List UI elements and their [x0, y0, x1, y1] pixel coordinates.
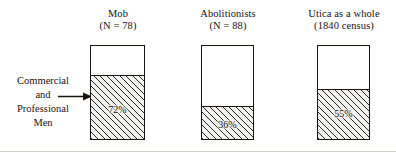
column-subtitle: (N = 78) [73, 20, 163, 32]
column-header-utica-as-a-whole: Utica as a whole (1840 census) [292, 8, 396, 33]
column-header-abolitionists: Abolitionists (N = 88) [183, 8, 273, 33]
column-title: Abolitionists [183, 8, 273, 20]
bar-utica-as-a-whole: 55% [317, 45, 370, 140]
bar-abolitionists: 36% [201, 45, 254, 140]
row-label-line: Men [0, 116, 86, 130]
bar-fill-abolitionists: 36% [202, 106, 253, 139]
bar-chart-figure: Mob (N = 78) Abolitionists (N = 88) Utic… [0, 0, 396, 153]
column-subtitle: (1840 census) [292, 20, 396, 32]
column-subtitle: (N = 88) [183, 20, 273, 32]
page-bottom-rule [0, 151, 396, 152]
bar-value-label: 36% [202, 119, 253, 130]
column-title: Utica as a whole [292, 8, 396, 20]
column-header-mob: Mob (N = 78) [73, 8, 163, 33]
bar-fill-utica-as-a-whole: 55% [318, 89, 369, 139]
bar-value-label: 72% [91, 104, 144, 115]
arrow-icon [58, 92, 92, 101]
bar-mob: 72% [90, 45, 145, 140]
column-title: Mob [73, 8, 163, 20]
bar-fill-mob: 72% [91, 75, 144, 139]
row-label-line: Commercial [0, 74, 86, 88]
row-label-commercial-and-professional-men: Commercial and Professional Men [0, 74, 86, 129]
bar-value-label: 55% [318, 108, 369, 119]
row-label-line: Professional [0, 102, 86, 116]
